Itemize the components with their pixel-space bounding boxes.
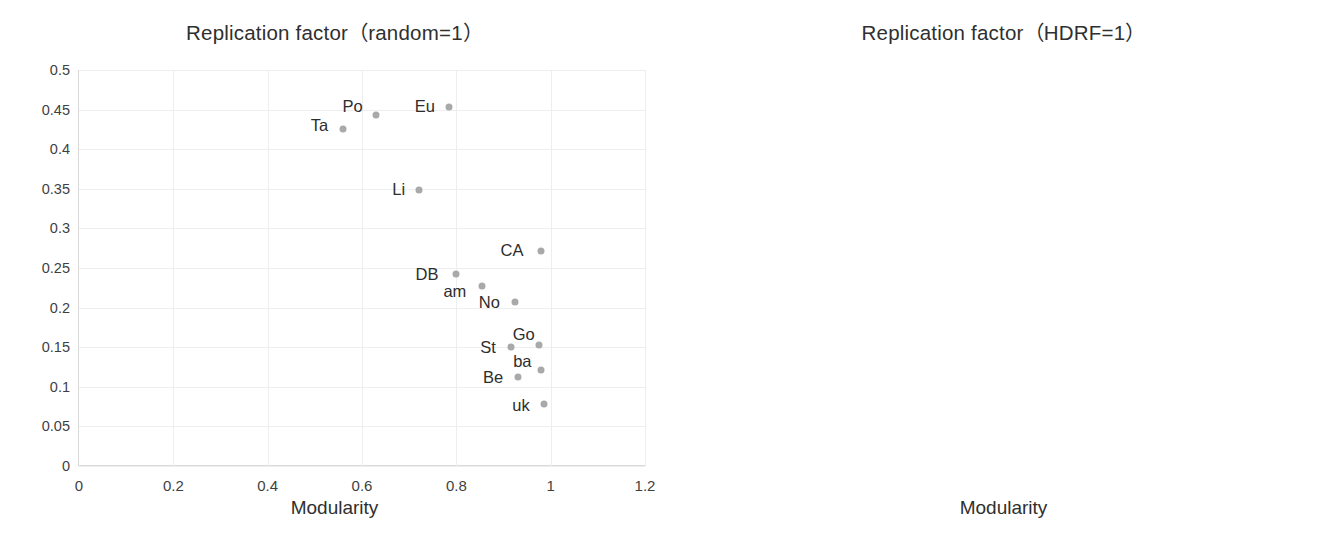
gridline-vertical [362,70,363,466]
data-point [373,112,380,119]
data-point [479,283,486,290]
data-point-label: St [480,339,496,356]
data-point [453,270,460,277]
data-point [538,247,545,254]
data-point-label: CA [501,242,524,259]
chart-title-right: Replication factor（HDRF=1） [669,16,1338,46]
data-point-label: am [443,283,466,300]
data-point-label: No [479,294,500,311]
x-axis-tick-label: 0.8 [446,477,467,494]
gridline-vertical [173,70,174,466]
x-axis-tick-label: 0.6 [352,477,373,494]
gridline-horizontal [79,466,645,467]
data-point [540,401,547,408]
data-point-label: Eu [415,98,435,115]
x-axis-label-right: Modularity [669,497,1338,519]
data-point [538,367,545,374]
y-axis-tick-label: 0.3 [50,220,70,236]
data-point-label: uk [512,397,529,414]
data-point [507,344,514,351]
x-axis-tick-label: 0.4 [257,477,278,494]
data-point-label: Po [342,98,362,115]
x-axis-label-left: Modularity [0,497,669,519]
data-point [446,104,453,111]
y-axis-tick-label: 0.45 [42,102,70,118]
gridline-vertical [645,70,646,466]
data-point-label: Go [513,325,535,342]
y-axis-tick-label: 0 [62,458,70,474]
data-point-label: Li [392,181,405,198]
chart-panel-right: Replication factor（HDRF=1） 00.20.40.60.8… [669,0,1338,557]
x-axis-tick-label: 1 [546,477,554,494]
data-point [340,126,347,133]
data-point-label: DB [416,265,439,282]
y-axis-tick-label: 0.1 [50,379,70,395]
y-axis-tick-label: 0.35 [42,181,70,197]
gridline-vertical [268,70,269,466]
y-axis-tick-label: 0.5 [50,62,70,78]
data-point-label: Ta [311,116,328,133]
x-axis-tick-label: 1.2 [635,477,656,494]
data-point [512,299,519,306]
y-axis-tick-label: 0.2 [50,300,70,316]
x-axis-tick-label: 0.2 [163,477,184,494]
data-point [514,373,521,380]
gridline-vertical [456,70,457,466]
data-point-label: ba [513,352,531,369]
chart-title-left: Replication factor（random=1） [0,16,669,46]
y-axis-tick-label: 0.25 [42,260,70,276]
y-axis-tick-label: 0.4 [50,141,70,157]
data-point [415,186,422,193]
gridline-vertical [551,70,552,466]
y-axis-tick-label: 0.05 [42,418,70,434]
chart-panel-left: Replication factor（random=1） 00.050.10.1… [0,0,669,557]
data-point-label: Be [483,369,503,386]
plot-area-left: 00.050.10.150.20.250.30.350.40.450.500.2… [78,70,645,466]
data-point [535,341,542,348]
x-axis-tick-label: 0 [75,477,83,494]
y-axis-tick-label: 0.15 [42,339,70,355]
